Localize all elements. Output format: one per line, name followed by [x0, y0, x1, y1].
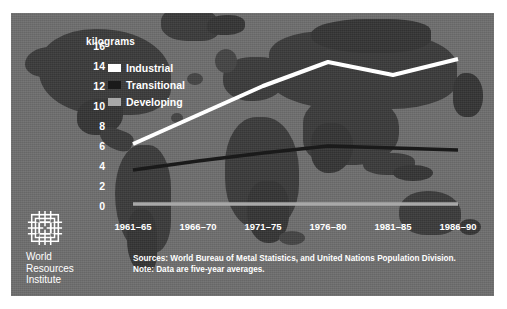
x-tick-label: 1971–75: [233, 221, 293, 232]
legend-item: Industrial: [108, 61, 185, 75]
wri-line-1: World: [26, 251, 114, 263]
wri-line-3: Institute: [26, 274, 114, 286]
x-tick-label: 1986–90: [428, 221, 488, 232]
figure-root: kilograms 0246810121416 1961–651966–7019…: [0, 0, 507, 309]
wri-line-2: Resources: [26, 263, 114, 275]
legend-item-label: Industrial: [126, 62, 173, 74]
wri-logo: World Resources Institute: [26, 209, 114, 286]
line-transitional: [133, 146, 458, 170]
legend-item-label: Developing: [126, 96, 183, 108]
x-tick-label: 1976–80: [298, 221, 358, 232]
chart-panel: kilograms 0246810121416 1961–651966–7019…: [11, 13, 494, 296]
legend-item-label: Transitional: [126, 79, 185, 91]
legend-swatch-developing: [108, 98, 121, 106]
sources-line: Sources: World Bureau of Metal Statistic…: [133, 253, 456, 264]
x-tick-label: 1966–70: [168, 221, 228, 232]
plot-area: kilograms 0246810121416 1961–651966–7019…: [11, 13, 494, 296]
chart-footnotes: Sources: World Bureau of Metal Statistic…: [133, 253, 456, 275]
legend-item: Transitional: [108, 78, 185, 92]
legend-swatch-transitional: [108, 81, 121, 89]
x-tick-label: 1981–85: [363, 221, 423, 232]
legend-swatch-industrial: [108, 64, 121, 72]
wri-woven-square-logo: [26, 209, 64, 247]
chart-legend: IndustrialTransitionalDeveloping: [108, 61, 185, 112]
wri-logo-text: World Resources Institute: [26, 251, 114, 286]
legend-item: Developing: [108, 95, 185, 109]
note-line: Note: Data are five-year averages.: [133, 264, 456, 275]
